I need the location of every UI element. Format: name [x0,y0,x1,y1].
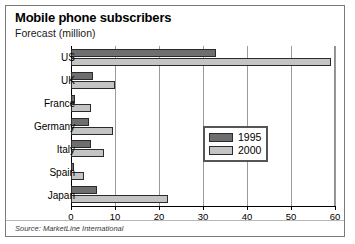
bar [71,149,104,157]
legend-swatch-icon [209,133,233,142]
x-axis-tick [71,206,72,210]
gridline [159,46,160,206]
chart-subtitle: Forecast (million) [15,27,96,39]
legend-item: 1995 [209,131,261,144]
category-label: France [44,98,75,109]
x-axis-tick [203,206,204,210]
category-label: UK [61,75,75,86]
category-label: Germany [34,121,75,132]
gridline [335,46,336,206]
legend-item: 2000 [209,144,261,157]
chart-figure: Mobile phone subscribers Forecast (milli… [5,5,345,237]
gridline [291,46,292,206]
category-label: Italy [57,143,75,154]
legend-label: 2000 [238,145,261,156]
bar [71,58,331,66]
footer-divider [6,220,344,221]
x-axis-tick [291,206,292,210]
page-title: Mobile phone subscribers [15,10,171,25]
x-axis-tick [335,206,336,210]
bar [71,49,216,57]
legend-swatch-icon [209,146,233,155]
x-axis-tick [159,206,160,210]
category-label: Spain [49,166,75,177]
category-label: Japan [48,189,75,200]
category-label: US [61,52,75,63]
chart-legend: 1995 2000 [203,126,268,162]
bar [71,81,115,89]
x-axis-tick [115,206,116,210]
source-note: Source: MarketLine International [15,224,123,233]
x-axis-tick [247,206,248,210]
bar [71,195,168,203]
gridline [115,46,116,206]
bar [71,127,113,135]
legend-label: 1995 [238,132,261,143]
